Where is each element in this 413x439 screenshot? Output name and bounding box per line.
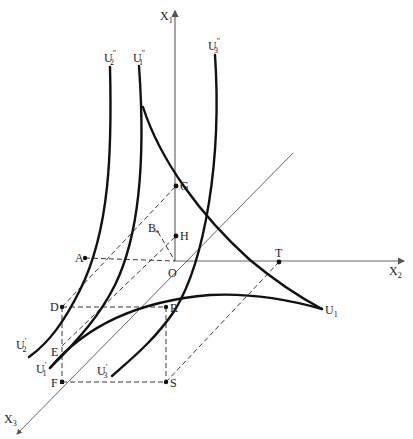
point-D — [60, 305, 64, 309]
label-T: T — [275, 246, 283, 260]
label-U3p: U′3 — [97, 363, 108, 380]
label-x2: X2 — [389, 264, 402, 280]
points: * — [60, 184, 282, 385]
point-G — [174, 184, 179, 189]
point-S — [164, 380, 168, 384]
axes — [17, 11, 404, 434]
label-x1: X1 — [160, 9, 173, 25]
point-H — [174, 234, 179, 239]
curve-U1p-U1 — [50, 295, 322, 368]
dashed-A-O — [85, 258, 175, 261]
utility-surface-diagram: * X1 X2 X3 O G H A B T D R E F S U1 U″1 … — [0, 0, 413, 439]
curve-U1pp-U1p — [50, 66, 142, 368]
label-O: O — [168, 266, 177, 280]
dashed-S-T — [166, 262, 279, 382]
label-U2pp: U″2 — [104, 49, 116, 67]
label-H: H — [180, 229, 189, 243]
label-U1p: U′1 — [36, 361, 47, 378]
point-T — [277, 260, 282, 265]
construction-lines — [62, 186, 279, 382]
labels: X1 X2 X3 O G H A B T D R E F S U1 U″1 U″… — [4, 9, 402, 428]
label-G: G — [180, 179, 189, 193]
label-R: R — [170, 301, 178, 315]
point-F — [60, 380, 64, 384]
label-A: A — [75, 251, 84, 265]
x3-axis — [17, 153, 293, 434]
label-D: D — [50, 300, 59, 314]
label-E: E — [51, 345, 58, 359]
label-x3: X3 — [4, 412, 17, 428]
label-U2p: U′2 — [16, 337, 27, 354]
label-U1pp: U″1 — [133, 49, 145, 67]
curve-U3pp-U3p — [112, 55, 217, 376]
label-U1: U1 — [325, 303, 338, 319]
label-U3pp: U″3 — [208, 37, 220, 55]
label-B: B — [148, 221, 156, 235]
label-S: S — [170, 376, 177, 390]
point-R — [164, 305, 168, 309]
label-F: F — [51, 376, 58, 390]
dashed-B-O — [158, 232, 175, 261]
dashed-D-G — [62, 186, 176, 307]
